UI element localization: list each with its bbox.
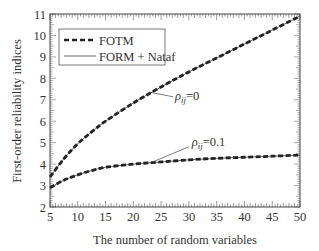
x-tick-label: 40 — [238, 210, 251, 224]
x-tick-label: 15 — [99, 210, 112, 224]
legend-form-nataf-label: FORM + Nataf — [99, 50, 176, 64]
y-tick-label: 4 — [40, 158, 47, 172]
x-tick-label: 35 — [210, 210, 223, 224]
x-tick-label: 10 — [72, 210, 85, 224]
y-tick-label: 9 — [40, 50, 46, 64]
y-tick-label: 6 — [40, 115, 46, 129]
chart: 5101520253035404550234567891011 ρij=0ρij… — [0, 0, 319, 251]
x-tick-label: 50 — [294, 210, 307, 224]
y-axis-label: First-order reliability indices — [10, 39, 24, 183]
y-tick-label: 3 — [40, 179, 46, 193]
annotations: ρij=0ρij=0.1 — [150, 89, 225, 163]
annotation-rho-0-1: ρij=0.1 — [191, 135, 226, 151]
legend-fotm-label: FOTM — [99, 34, 134, 48]
y-tick-label: 8 — [40, 72, 46, 86]
y-tick-label: 11 — [34, 8, 46, 22]
x-tick-label: 5 — [47, 210, 53, 224]
annotation-leader-line — [150, 92, 173, 97]
fotm-curve-rho-0-1 — [50, 155, 300, 188]
y-tick-label: 7 — [40, 93, 46, 107]
y-tick-label: 2 — [40, 201, 46, 215]
x-tick-label: 25 — [155, 210, 168, 224]
y-tick-label: 5 — [40, 136, 46, 150]
x-axis-label: The number of random variables — [93, 233, 257, 247]
legend: FOTM FORM + Nataf — [59, 29, 176, 65]
y-tick-label: 10 — [34, 29, 47, 43]
x-tick-label: 45 — [266, 210, 279, 224]
annotation-rho-0: ρij=0 — [174, 89, 199, 105]
x-tick-label: 30 — [183, 210, 196, 224]
x-tick-label: 20 — [127, 210, 140, 224]
